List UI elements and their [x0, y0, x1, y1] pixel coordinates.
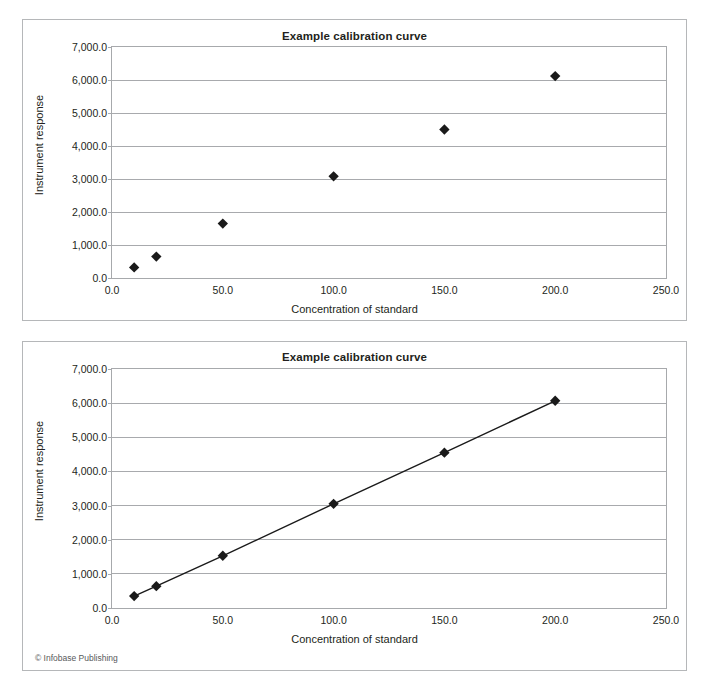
y-axis-tick-mark	[108, 278, 112, 279]
y-axis-tick-label: 4,000.0	[72, 140, 107, 152]
x-axis-tick-label: 100.0	[320, 614, 346, 626]
data-point-marker	[218, 218, 228, 228]
data-point-marker	[328, 499, 338, 509]
data-point-marker	[218, 551, 228, 561]
y-axis-tick-label: 3,000.0	[72, 173, 107, 185]
x-axis-tick-label: 50.0	[213, 614, 233, 626]
y-axis-tick-mark	[108, 403, 112, 404]
plot-area-line: 0.01,000.02,000.03,000.04,000.05,000.06,…	[111, 368, 667, 609]
chart-card-line: Example calibration curve 0.01,000.02,00…	[22, 341, 687, 671]
x-axis-title-line: Concentration of standard	[23, 633, 686, 645]
y-axis-tick-mark	[108, 574, 112, 575]
y-axis-tick-label: 6,000.0	[72, 74, 107, 86]
y-axis-tick-mark	[108, 369, 112, 370]
data-point-marker	[129, 591, 139, 601]
data-point-marker	[328, 171, 338, 181]
x-axis-tick-label: 50.0	[213, 284, 233, 296]
y-axis-tick-label: 6,000.0	[72, 397, 107, 409]
y-axis-tick-mark	[108, 506, 112, 507]
y-axis-tick-mark	[108, 113, 112, 114]
data-point-marker	[151, 251, 161, 261]
y-axis-tick-mark	[108, 540, 112, 541]
x-axis-tick-label: 250.0	[653, 284, 679, 296]
y-axis-tick-label: 1,000.0	[72, 239, 107, 251]
x-axis-tick-label: 250.0	[653, 614, 679, 626]
x-axis-tick-label: 0.0	[105, 614, 120, 626]
y-axis-tick-label: 2,000.0	[72, 534, 107, 546]
x-axis-tick-label: 150.0	[431, 284, 457, 296]
y-axis-tick-label: 3,000.0	[72, 500, 107, 512]
line-canvas	[112, 369, 666, 608]
y-axis-tick-mark	[108, 608, 112, 609]
y-axis-tick-mark	[108, 47, 112, 48]
chart-title-scatter: Example calibration curve	[23, 30, 686, 42]
y-axis-tick-label: 1,000.0	[72, 568, 107, 580]
y-axis-tick-label: 5,000.0	[72, 107, 107, 119]
y-axis-tick-mark	[108, 80, 112, 81]
y-axis-tick-label: 2,000.0	[72, 206, 107, 218]
data-point-marker	[151, 581, 161, 591]
x-axis-tick-label: 200.0	[542, 614, 568, 626]
y-axis-tick-label: 5,000.0	[72, 431, 107, 443]
scatter-canvas	[112, 47, 666, 278]
y-axis-tick-label: 7,000.0	[72, 363, 107, 375]
x-axis-tick-label: 0.0	[105, 284, 120, 296]
x-axis-tick-label: 200.0	[542, 284, 568, 296]
chart-title-line: Example calibration curve	[23, 351, 686, 363]
data-line	[134, 401, 555, 596]
plot-area-scatter: 0.01,000.02,000.03,000.04,000.05,000.06,…	[111, 46, 667, 279]
y-axis-tick-mark	[108, 437, 112, 438]
y-axis-tick-label: 0.0	[92, 272, 107, 284]
y-axis-title-scatter: Instrument response	[33, 85, 45, 205]
x-axis-tick-label: 100.0	[320, 284, 346, 296]
y-axis-tick-label: 7,000.0	[72, 41, 107, 53]
y-axis-tick-mark	[108, 212, 112, 213]
x-axis-title-scatter: Concentration of standard	[23, 303, 686, 315]
y-axis-tick-mark	[108, 179, 112, 180]
y-axis-tick-mark	[108, 245, 112, 246]
y-axis-tick-mark	[108, 471, 112, 472]
data-point-marker	[439, 447, 449, 457]
x-axis-tick-label: 150.0	[431, 614, 457, 626]
figure-page: Example calibration curve 0.01,000.02,00…	[0, 0, 708, 692]
y-axis-tick-label: 4,000.0	[72, 465, 107, 477]
y-axis-tick-label: 0.0	[92, 602, 107, 614]
data-point-marker	[129, 262, 139, 272]
data-point-marker	[550, 396, 560, 406]
y-axis-tick-mark	[108, 146, 112, 147]
data-point-marker	[439, 124, 449, 134]
y-axis-title-line: Instrument response	[33, 411, 45, 531]
publisher-credit: © Infobase Publishing	[35, 653, 118, 663]
chart-card-scatter: Example calibration curve 0.01,000.02,00…	[22, 19, 687, 321]
